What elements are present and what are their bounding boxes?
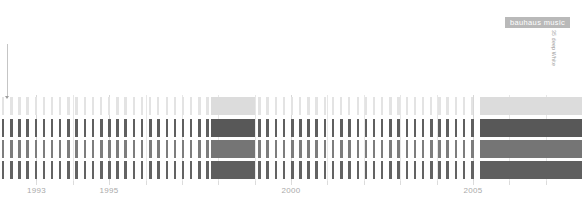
- bar-tick: [357, 161, 360, 179]
- bar-tick: [51, 161, 54, 179]
- bar-tick: [75, 97, 77, 115]
- bar-tick: [397, 97, 399, 115]
- bar-tick: [10, 119, 13, 137]
- bar-tick: [471, 161, 474, 179]
- bar-tick: [275, 140, 278, 158]
- bar-tick: [348, 161, 351, 179]
- bar-tick: [266, 97, 268, 115]
- axis-tick: [36, 181, 37, 185]
- bar-tick: [463, 97, 465, 115]
- bar-tick: [414, 161, 417, 179]
- bar-tick: [463, 161, 466, 179]
- bar-tick: [389, 119, 392, 137]
- axis-tick: [509, 181, 510, 185]
- bar-tick: [357, 97, 359, 115]
- axis-label-2000: 2000: [282, 186, 301, 195]
- bar-tick: [92, 97, 94, 115]
- bar-tick: [291, 97, 293, 115]
- bar-tick: [133, 140, 136, 158]
- bar-tick: [414, 140, 417, 158]
- bar-tick: [340, 140, 343, 158]
- bar-tick: [84, 140, 87, 158]
- bar-tick: [182, 161, 185, 179]
- bar-tick: [174, 161, 177, 179]
- bar-tick: [92, 140, 95, 158]
- bar-tick: [332, 140, 335, 158]
- bar-tick: [198, 161, 201, 179]
- bar-tick: [324, 97, 326, 115]
- bar-tick: [166, 97, 168, 115]
- highlight-block: [211, 161, 255, 179]
- bar-tick: [446, 97, 448, 115]
- bar-tick: [84, 161, 87, 179]
- bar-tick: [315, 97, 317, 115]
- bar-tick: [59, 140, 62, 158]
- bar-tick: [198, 119, 201, 137]
- bar-tick: [365, 140, 368, 158]
- bar-tick: [206, 140, 209, 158]
- bar-tick: [422, 140, 425, 158]
- axis-tick: [364, 181, 365, 185]
- bar-tick: [67, 140, 70, 158]
- bar-tick: [381, 161, 384, 179]
- chart-root: bauhaus music 35 deep White 199319952000…: [0, 0, 582, 202]
- bar-tick: [275, 97, 277, 115]
- axis-tick: [437, 181, 438, 185]
- bar-tick: [190, 161, 193, 179]
- bar-tick: [324, 161, 327, 179]
- bar-tick: [315, 161, 318, 179]
- bar-tick: [438, 161, 441, 179]
- bar-tick: [471, 140, 474, 158]
- bar-tick: [43, 97, 45, 115]
- bar-tick: [84, 119, 87, 137]
- bar-tick: [340, 161, 343, 179]
- bar-tick: [198, 97, 200, 115]
- bar-tick: [389, 140, 392, 158]
- bar-tick: [373, 119, 376, 137]
- bar-tick: [18, 140, 21, 158]
- bar-tick: [422, 119, 425, 137]
- bar-tick: [206, 119, 209, 137]
- axis-tick: [73, 181, 74, 185]
- bar-tick: [357, 119, 360, 137]
- bar-tick: [406, 119, 409, 137]
- bar-tick: [174, 97, 176, 115]
- annotation-callout: 35 deep White: [548, 30, 560, 76]
- bar-tick: [67, 97, 69, 115]
- bar-tick: [455, 119, 458, 137]
- bar-tick: [357, 140, 360, 158]
- bar-tick: [430, 119, 433, 137]
- bar-tick: [157, 97, 159, 115]
- bar-tick: [397, 119, 400, 137]
- bar-tick: [332, 161, 335, 179]
- bar-tick: [397, 140, 400, 158]
- bar-tick: [18, 97, 20, 115]
- x-axis: 1993199520002005: [0, 181, 582, 202]
- bar-tick: [116, 119, 119, 137]
- axis-tick: [546, 181, 547, 185]
- highlight-block: [480, 97, 582, 115]
- bar-tick: [422, 97, 424, 115]
- series-row: [0, 140, 582, 158]
- bar-tick: [35, 97, 37, 115]
- bar-tick: [299, 97, 301, 115]
- bar-tick: [455, 140, 458, 158]
- bar-tick: [26, 161, 29, 179]
- bar-tick: [406, 140, 409, 158]
- bar-tick: [59, 97, 61, 115]
- bar-tick: [283, 161, 286, 179]
- bar-tick: [116, 161, 119, 179]
- bar-tick: [166, 161, 169, 179]
- bar-tick: [438, 140, 441, 158]
- axis-tick: [473, 181, 474, 185]
- bar-tick: [18, 119, 21, 137]
- bar-tick: [100, 97, 102, 115]
- bar-tick: [258, 161, 261, 179]
- bar-tick: [299, 161, 302, 179]
- bar-tick: [26, 140, 29, 158]
- bar-tick: [166, 140, 169, 158]
- bar-tick: [340, 119, 343, 137]
- bar-tick: [258, 140, 261, 158]
- series-row: [0, 97, 582, 115]
- bar-tick: [373, 97, 375, 115]
